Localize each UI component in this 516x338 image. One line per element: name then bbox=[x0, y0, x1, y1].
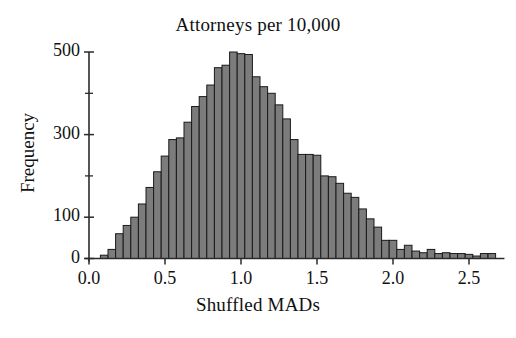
histogram-bar bbox=[192, 107, 200, 259]
histogram-bar bbox=[374, 227, 382, 258]
histogram-bar bbox=[275, 105, 283, 259]
histogram-bar bbox=[298, 154, 306, 258]
histogram-bar bbox=[382, 240, 390, 258]
histogram-bar bbox=[230, 52, 238, 259]
histogram-bar bbox=[237, 54, 245, 259]
histogram-bar bbox=[222, 65, 230, 258]
y-tick-label: 0 bbox=[10, 247, 80, 268]
histogram-bar bbox=[404, 245, 412, 258]
histogram-bar bbox=[283, 119, 291, 259]
histogram-bars bbox=[100, 52, 495, 259]
histogram-bar bbox=[359, 209, 367, 259]
histogram-bar bbox=[123, 225, 131, 258]
x-tick-label: 1.5 bbox=[287, 268, 347, 289]
histogram-bar bbox=[389, 240, 397, 258]
histogram-bar bbox=[116, 234, 124, 259]
histogram-bar bbox=[321, 176, 329, 259]
histogram-bar bbox=[184, 122, 192, 258]
y-tick-label: 500 bbox=[10, 40, 80, 61]
histogram-bar bbox=[176, 138, 184, 259]
histogram-bar bbox=[154, 172, 162, 259]
histogram-bar bbox=[306, 154, 314, 258]
x-tick-label: 1.0 bbox=[211, 268, 271, 289]
histogram-bar bbox=[290, 140, 298, 259]
histogram-bar bbox=[344, 193, 352, 258]
x-tick-label: 2.0 bbox=[363, 268, 423, 289]
histogram-bar bbox=[427, 249, 435, 258]
histogram-bar bbox=[199, 97, 207, 259]
x-tick-label: 2.5 bbox=[439, 268, 499, 289]
histogram-bar bbox=[420, 253, 428, 259]
histogram-bar bbox=[146, 187, 154, 258]
x-tick-label: 0.0 bbox=[59, 268, 119, 289]
histogram-bar bbox=[108, 249, 116, 258]
histogram-bar bbox=[138, 204, 146, 259]
histogram-bar bbox=[412, 251, 420, 258]
histogram-bar bbox=[442, 253, 450, 259]
histogram-bar bbox=[169, 140, 177, 259]
histogram-figure: Attorneys per 10,000 Frequency Shuffled … bbox=[0, 0, 516, 338]
histogram-bar bbox=[397, 249, 405, 258]
histogram-bar bbox=[252, 77, 260, 259]
histogram-bar bbox=[207, 85, 215, 258]
x-tick-label: 0.5 bbox=[135, 268, 195, 289]
histogram-bar bbox=[268, 93, 276, 258]
histogram-bar bbox=[245, 54, 253, 258]
y-tick-label: 100 bbox=[10, 205, 80, 226]
histogram-bar bbox=[366, 219, 374, 259]
histogram-bar bbox=[214, 68, 222, 259]
histogram-bar bbox=[161, 156, 169, 258]
histogram-bar bbox=[336, 183, 344, 258]
histogram-bar bbox=[260, 87, 268, 259]
histogram-bar bbox=[351, 197, 359, 258]
y-tick-label: 300 bbox=[10, 123, 80, 144]
histogram-bar bbox=[131, 217, 139, 258]
histogram-bar bbox=[313, 155, 321, 258]
histogram-bar bbox=[328, 177, 336, 259]
